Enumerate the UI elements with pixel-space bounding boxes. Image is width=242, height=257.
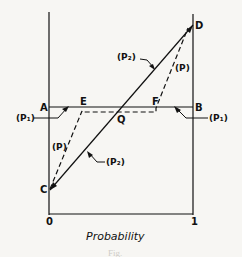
probability-diagram: D A E F B Q C (P₂) (P) (P₁) (P₁) (P) (P₂… bbox=[0, 0, 242, 257]
figure-caption: Fig. bbox=[108, 248, 122, 257]
arrowhead-p2-upper bbox=[149, 64, 155, 70]
leader-p1-right bbox=[176, 108, 208, 118]
label-point-D: D bbox=[195, 20, 203, 31]
label-point-B: B bbox=[195, 102, 203, 113]
label-p-upper: (P) bbox=[175, 63, 190, 73]
label-p2-lower: (P₂) bbox=[106, 157, 125, 167]
label-p1-left: (P₁) bbox=[16, 113, 35, 123]
label-p-lower: (P) bbox=[52, 142, 67, 152]
x-axis-title: Probability bbox=[86, 230, 145, 243]
label-point-A: A bbox=[40, 102, 48, 113]
x-axis-min-label: 0 bbox=[46, 216, 53, 227]
label-point-C: C bbox=[40, 184, 47, 195]
label-p1-right: (P₁) bbox=[209, 113, 228, 123]
x-axis-max-label: 1 bbox=[191, 216, 198, 227]
label-p2-upper: (P₂) bbox=[117, 52, 136, 62]
leader-p1-left bbox=[34, 108, 67, 118]
label-point-F: F bbox=[152, 96, 159, 107]
label-point-E: E bbox=[80, 96, 87, 107]
label-point-Q: Q bbox=[117, 114, 126, 125]
